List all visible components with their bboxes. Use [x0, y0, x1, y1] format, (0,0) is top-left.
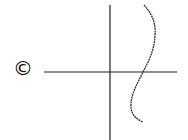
diagram-canvas — [0, 0, 188, 140]
wavy-curve — [131, 5, 155, 122]
